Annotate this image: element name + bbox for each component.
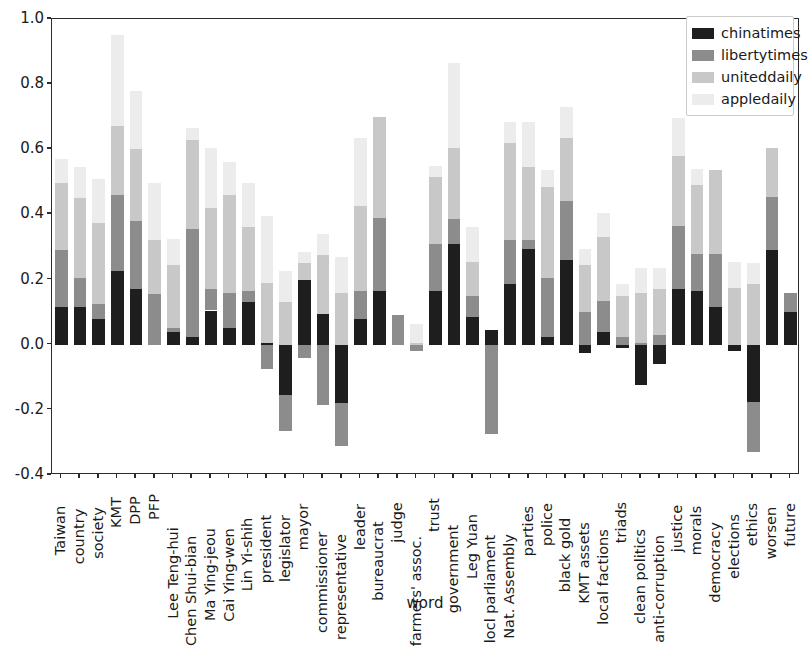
- bar-segment-libertytimes: [317, 345, 330, 405]
- bar-group: [541, 19, 554, 473]
- bar-group: [504, 19, 517, 473]
- x-tick-mark: [452, 474, 454, 478]
- bar-segment-libertytimes: [373, 218, 386, 291]
- bar-segment-appledaily: [616, 284, 629, 295]
- bar-group: [167, 19, 180, 473]
- bar-segment-chinatimes: [448, 244, 461, 345]
- bar-group: [130, 19, 143, 473]
- x-tick-mark: [209, 474, 211, 478]
- bar-segment-appledaily: [691, 169, 704, 185]
- x-tick-mark: [97, 474, 99, 478]
- bar-segment-uniteddaily: [410, 343, 423, 345]
- bar-group: [279, 19, 292, 473]
- x-tick-label: mayor: [303, 481, 318, 527]
- bar-segment-uniteddaily: [148, 240, 161, 294]
- bar-segment-libertytimes: [429, 244, 442, 291]
- bar-segment-chinatimes: [560, 260, 573, 345]
- x-tick-label-text: Lin Yi-shih: [240, 517, 255, 590]
- y-tick-label: 0.6: [20, 138, 44, 158]
- bar-segment-libertytimes: [466, 296, 479, 317]
- bar-group: [261, 19, 274, 473]
- bar-segment-appledaily: [130, 91, 143, 150]
- x-tick-mark: [265, 474, 267, 478]
- bar-group: [373, 19, 386, 473]
- x-tick-mark: [321, 474, 323, 478]
- x-tick-mark: [527, 474, 529, 478]
- bar-segment-chinatimes: [522, 249, 535, 345]
- bar-segment-chinatimes: [279, 345, 292, 395]
- x-tick-label-text: country: [72, 508, 87, 563]
- bar-segment-chinatimes: [766, 250, 779, 344]
- bar-segment-libertytimes: [653, 335, 666, 345]
- bar-segment-libertytimes: [335, 403, 348, 445]
- bar-segment-uniteddaily: [130, 149, 143, 221]
- bar-segment-uniteddaily: [466, 262, 479, 296]
- bar-segment-libertytimes: [92, 304, 105, 319]
- x-tick-mark: [396, 474, 398, 478]
- bar-segment-libertytimes: [298, 345, 311, 358]
- bar-segment-libertytimes: [55, 250, 68, 307]
- bar-group: [466, 19, 479, 473]
- x-tick-label-text: ethics: [745, 502, 760, 545]
- y-tick-label: 1.0: [20, 8, 44, 28]
- bar-segment-chinatimes: [635, 345, 648, 386]
- bar-segment-uniteddaily: [635, 293, 648, 343]
- x-tick-label-text: mayor: [296, 504, 311, 550]
- x-tick-mark: [471, 474, 473, 478]
- bar-group: [55, 19, 68, 473]
- x-tick-mark: [583, 474, 585, 478]
- bar-segment-appledaily: [429, 166, 442, 177]
- y-tick-label: -0.4: [15, 464, 44, 484]
- bar-segment-libertytimes: [111, 195, 124, 272]
- bar-segment-uniteddaily: [560, 138, 573, 202]
- bar-group: [148, 19, 161, 473]
- x-tick-mark: [134, 474, 136, 478]
- x-tick-label-text: society: [90, 507, 105, 559]
- bar-segment-chinatimes: [74, 307, 87, 344]
- bar-segment-chinatimes: [653, 345, 666, 365]
- bar-segment-appledaily: [466, 227, 479, 261]
- legend-item-chinatimes: chinatimes: [692, 22, 789, 44]
- x-tick-label-text: bureaucrat: [371, 521, 386, 601]
- legend-swatch-uniteddaily: [692, 72, 714, 83]
- x-tick-mark: [434, 474, 436, 478]
- bar-segment-chinatimes: [747, 345, 760, 402]
- bar-segment-libertytimes: [186, 229, 199, 336]
- bar-segment-libertytimes: [579, 312, 592, 345]
- bar-group: [448, 19, 461, 473]
- x-tick-label-text: elections: [726, 513, 741, 578]
- bar-segment-uniteddaily: [354, 206, 367, 291]
- bar-group: [205, 19, 218, 473]
- x-tick-mark: [247, 474, 249, 478]
- x-axis-title: word: [51, 594, 799, 612]
- x-tick-mark: [377, 474, 379, 478]
- bar-segment-uniteddaily: [55, 183, 68, 250]
- bar-segment-libertytimes: [485, 345, 498, 435]
- x-tick-mark: [340, 474, 342, 478]
- bar-segment-libertytimes: [709, 254, 722, 308]
- bar-segment-chinatimes: [579, 345, 592, 353]
- bar-segment-appledaily: [242, 183, 255, 227]
- bar-segment-chinatimes: [691, 291, 704, 345]
- bar-segment-appledaily: [747, 263, 760, 284]
- bar-segment-chinatimes: [709, 307, 722, 344]
- bar-segment-libertytimes: [392, 315, 405, 344]
- bar-segment-libertytimes: [223, 293, 236, 329]
- x-tick-label: trust: [434, 481, 449, 515]
- bar-segment-libertytimes: [522, 240, 535, 248]
- bar-segment-chinatimes: [784, 312, 797, 345]
- y-tick-label: 0.4: [20, 203, 44, 223]
- bar-segment-appledaily: [504, 122, 517, 143]
- bar-segment-appledaily: [167, 239, 180, 265]
- bar-segment-uniteddaily: [766, 148, 779, 197]
- bar-segment-appledaily: [74, 167, 87, 198]
- x-tick-label-text: worsen: [763, 507, 778, 559]
- bar-segment-libertytimes: [560, 201, 573, 260]
- bar-segment-chinatimes: [616, 345, 629, 348]
- bar-segment-libertytimes: [635, 343, 648, 345]
- bar-segment-uniteddaily: [616, 296, 629, 337]
- bar-group: [672, 19, 685, 473]
- bar-segment-uniteddaily: [709, 170, 722, 253]
- x-tick-mark: [621, 474, 623, 478]
- bar-segment-uniteddaily: [242, 227, 255, 291]
